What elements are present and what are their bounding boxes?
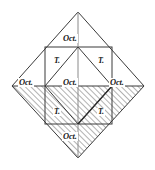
label-oct-bottom: Oct.	[62, 132, 78, 141]
upper-right-diagonal	[78, 47, 112, 86]
label-oct-right: Oct.	[109, 78, 125, 87]
label-oct-left: Oct.	[18, 78, 34, 87]
crystal-site-figure: Oct. Oct. Oct. Oct. Oct. T. T. T. T.	[0, 0, 155, 170]
label-tet-top-left: T.	[53, 57, 61, 65]
label-tet-bottom-left: T.	[53, 108, 61, 116]
label-oct-center: Oct.	[62, 78, 78, 87]
label-tet-top-right: T.	[97, 57, 105, 65]
label-tet-bottom-right: T.	[97, 108, 105, 116]
label-oct-top: Oct.	[62, 34, 78, 43]
